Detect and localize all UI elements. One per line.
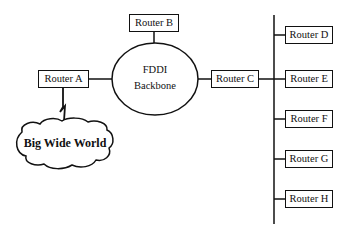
router-c[interactable]: Router C <box>211 70 259 88</box>
fddi-backbone-label: FDDI Backbone <box>125 63 185 92</box>
router-h[interactable]: Router H <box>285 190 333 208</box>
backbone-line2: Backbone <box>125 79 185 92</box>
router-d[interactable]: Router D <box>285 26 333 44</box>
router-g[interactable]: Router G <box>285 150 333 168</box>
router-a[interactable]: Router A <box>38 70 89 88</box>
backbone-line1: FDDI <box>125 63 185 76</box>
router-e[interactable]: Router E <box>285 70 333 88</box>
router-f[interactable]: Router F <box>285 110 333 128</box>
wan-lightning-link-icon <box>60 88 65 121</box>
cloud-label: Big Wide World <box>18 137 112 150</box>
router-b[interactable]: Router B <box>129 14 179 32</box>
